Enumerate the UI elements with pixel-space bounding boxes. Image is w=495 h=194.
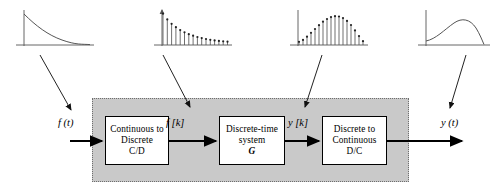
signal-label-output-continuous: y (t): [441, 117, 458, 128]
arrow-plot4-to-output: [450, 55, 466, 108]
arrow-plot1-to-input: [40, 55, 71, 110]
block-g-line-3: G: [249, 146, 256, 157]
stem-lines: [299, 16, 363, 45]
block-cd-line-1: Continuous to: [110, 124, 164, 135]
block-dc-line-3: D/C: [347, 146, 363, 157]
signal-label-processed-discrete-output: y [k]: [288, 117, 308, 128]
plot-sampled-discrete-input-svg: [152, 8, 234, 52]
stem-lines: [163, 14, 228, 45]
block-cd-line-2: Discrete: [121, 135, 153, 146]
block-diagram-figure: Continuous to Discrete C/D Discrete-time…: [0, 0, 495, 194]
plot-sampled-discrete-input: [152, 8, 234, 52]
signal-label-input-continuous: f (t): [58, 117, 73, 128]
block-discrete-to-continuous[interactable]: Discrete to Continuous D/C: [322, 116, 387, 165]
plot-input-continuous: [14, 8, 96, 52]
plot-input-continuous-svg: [14, 8, 96, 52]
plot-output-continuous: [416, 8, 492, 52]
block-discrete-time-system[interactable]: Discrete-time system G: [219, 116, 285, 165]
block-dc-line-2: Continuous: [333, 135, 377, 146]
curve-decaying-exponential: [24, 14, 90, 45]
block-g-line-1: Discrete-time: [226, 124, 278, 135]
signal-label-sampled-discrete-input: f [k]: [166, 117, 184, 128]
curve-hump-response: [426, 20, 484, 45]
plot-output-continuous-svg: [416, 8, 492, 52]
block-cd-line-3: C/D: [129, 146, 145, 157]
block-continuous-to-discrete[interactable]: Continuous to Discrete C/D: [105, 116, 169, 165]
plot-processed-discrete-output-svg: [288, 8, 370, 52]
block-g-line-2: system: [239, 135, 265, 146]
plot-processed-discrete-output: [288, 8, 370, 52]
block-dc-line-1: Discrete to: [334, 124, 376, 135]
